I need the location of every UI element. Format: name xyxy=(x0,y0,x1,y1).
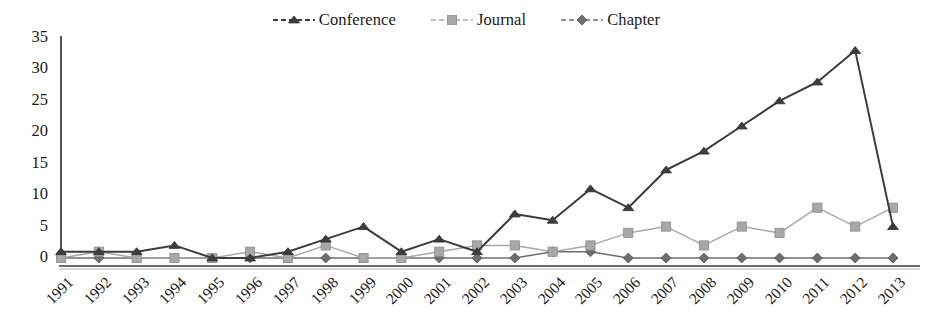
series-chapter-diamond-marker xyxy=(699,253,709,263)
series-conference-triangle-marker xyxy=(509,210,520,217)
series-journal-square-marker xyxy=(624,228,633,237)
y-tick-label: 20 xyxy=(14,123,48,140)
series-chapter-diamond-marker xyxy=(775,253,785,263)
series-journal-square-marker xyxy=(851,222,860,231)
series-conference xyxy=(56,47,899,261)
series-line-conference xyxy=(61,51,893,258)
y-tick-label: 25 xyxy=(14,92,48,109)
series-chapter-diamond-marker xyxy=(850,253,860,263)
series-journal-square-marker xyxy=(699,241,708,250)
series-chapter-diamond-marker xyxy=(321,253,331,263)
series-chapter-diamond-marker xyxy=(812,253,822,263)
series-journal-square-marker xyxy=(359,253,368,262)
series-conference-triangle-marker xyxy=(358,223,369,230)
series-journal-square-marker xyxy=(661,222,670,231)
series-conference-triangle-marker xyxy=(585,185,596,192)
series-chapter-diamond-marker xyxy=(888,253,898,263)
line-chart: ConferenceJournalChapter 05101520253035 … xyxy=(0,0,932,324)
series-chapter-diamond-marker xyxy=(737,253,747,263)
y-tick-label: 35 xyxy=(14,29,48,46)
series-chapter-diamond-marker xyxy=(661,253,671,263)
series-journal-square-marker xyxy=(548,247,557,256)
series-journal-square-marker xyxy=(170,253,179,262)
series-conference-triangle-marker xyxy=(434,235,445,242)
y-tick-label: 15 xyxy=(14,155,48,172)
y-tick-label: 5 xyxy=(14,218,48,235)
series-conference-triangle-marker xyxy=(169,241,180,248)
y-tick-label: 30 xyxy=(14,60,48,77)
series-conference-triangle-marker xyxy=(888,223,899,230)
y-tick-label: 10 xyxy=(14,186,48,203)
series-conference-triangle-marker xyxy=(850,47,861,54)
series-journal-square-marker xyxy=(737,222,746,231)
series-journal-square-marker xyxy=(813,203,822,212)
series-journal-square-marker xyxy=(435,247,444,256)
series-journal-square-marker xyxy=(586,241,595,250)
series-chapter-diamond-marker xyxy=(510,253,520,263)
y-tick-label: 0 xyxy=(14,249,48,266)
series-chapter-diamond-marker xyxy=(623,253,633,263)
series-journal-square-marker xyxy=(775,228,784,237)
series-journal-square-marker xyxy=(510,241,519,250)
